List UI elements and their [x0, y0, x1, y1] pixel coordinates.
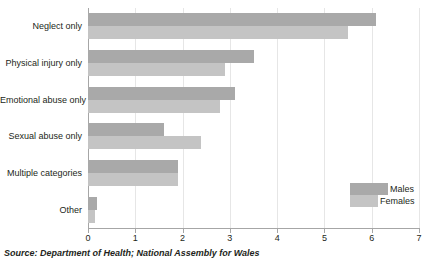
gridline	[277, 8, 278, 228]
category-label: Sexual abuse only	[0, 131, 82, 141]
bar-males	[88, 50, 254, 63]
bar-females	[88, 136, 201, 149]
bar-males	[88, 160, 178, 173]
gridline	[230, 8, 231, 228]
bar-males	[88, 123, 164, 136]
bar-females	[88, 210, 95, 223]
bar-females	[88, 100, 220, 113]
bar-chart-figure: 01234567 Neglect onlyPhysical injury onl…	[0, 0, 425, 266]
source-note: Source: Department of Health; National A…	[4, 248, 260, 258]
legend-label-males: Males	[390, 184, 414, 194]
bar-males	[88, 197, 97, 210]
x-tick-label: 5	[312, 233, 336, 243]
legend-label-females: Females	[380, 196, 415, 206]
x-tick-label: 0	[76, 233, 100, 243]
bar-males	[88, 87, 235, 100]
x-tick-label: 1	[123, 233, 147, 243]
bar-males	[88, 13, 376, 26]
x-tick-label: 7	[407, 233, 425, 243]
category-label: Multiple categories	[0, 168, 82, 178]
bar-females	[88, 173, 178, 186]
gridline	[324, 8, 325, 228]
category-label: Emotional abuse only	[0, 95, 82, 105]
gridline	[183, 8, 184, 228]
x-axis-line	[88, 228, 420, 229]
bar-females	[88, 63, 225, 76]
legend: Males Females	[350, 183, 425, 213]
category-label: Physical injury only	[0, 58, 82, 68]
legend-swatch-females	[350, 195, 378, 207]
x-tick-label: 3	[218, 233, 242, 243]
x-tick-label: 2	[171, 233, 195, 243]
bar-females	[88, 26, 348, 39]
gridline	[135, 8, 136, 228]
category-label: Other	[0, 205, 82, 215]
x-tick-label: 6	[360, 233, 384, 243]
legend-swatch-males	[350, 183, 388, 195]
category-label: Neglect only	[0, 21, 82, 31]
x-tick-label: 4	[265, 233, 289, 243]
